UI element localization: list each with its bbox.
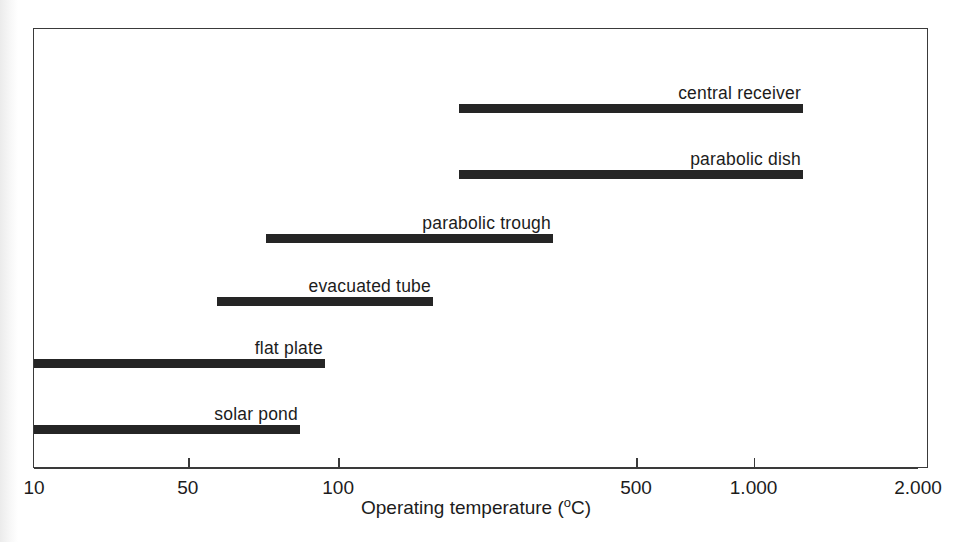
bar-track — [34, 181, 918, 247]
bar-parabolic-trough — [266, 234, 553, 243]
x-tick-1000 — [754, 458, 756, 467]
x-axis-title: Operating temperature (oC) — [34, 497, 918, 519]
bar-track — [34, 51, 918, 117]
degree-symbol: o — [564, 495, 571, 510]
x-tick-50 — [188, 458, 190, 467]
bar-track — [34, 306, 918, 372]
x-tick-label-10: 10 — [23, 477, 44, 499]
x-tick-500 — [636, 458, 638, 467]
bar-track — [34, 117, 918, 183]
x-tick-label-100: 100 — [322, 477, 354, 499]
bar-row-flat-plate: flat plate — [34, 306, 918, 372]
bar-row-solar-pond: solar pond — [34, 372, 918, 438]
bar-track — [34, 372, 918, 438]
bar-row-parabolic-dish: parabolic dish — [34, 117, 918, 183]
x-tick-label-1000: 1.000 — [730, 477, 778, 499]
x-axis-title-text: Operating temperature ( — [361, 497, 564, 518]
bar-row-parabolic-trough: parabolic trough — [34, 181, 918, 247]
scanned-page-edge — [0, 0, 18, 542]
x-axis: 10501005001.0002.000 — [34, 467, 918, 469]
bar-parabolic-dish — [459, 170, 803, 179]
x-tick-label-2000: 2.000 — [894, 477, 942, 499]
bar-solar-pond — [34, 425, 300, 434]
bar-track — [34, 244, 918, 310]
x-tick-label-500: 500 — [620, 477, 652, 499]
bar-row-evacuated-tube: evacuated tube — [34, 244, 918, 310]
plot-area: central receiver parabolic dish paraboli… — [34, 29, 918, 468]
x-axis-unit: C) — [571, 497, 591, 518]
bar-flat-plate — [34, 359, 325, 368]
bar-evacuated-tube — [217, 297, 433, 306]
x-tick-label-50: 50 — [177, 477, 198, 499]
bar-central-receiver — [459, 104, 803, 113]
x-tick-100 — [338, 458, 340, 467]
bar-row-central-receiver: central receiver — [34, 51, 918, 117]
